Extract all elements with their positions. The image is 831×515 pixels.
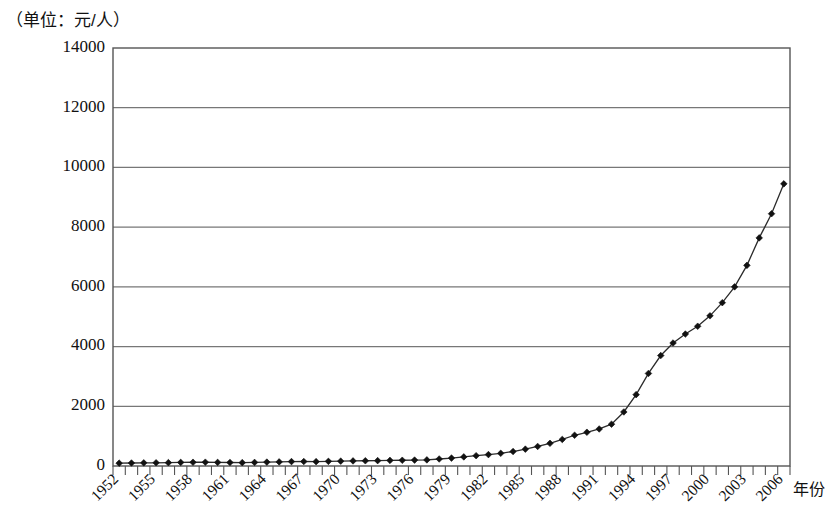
- x-tick-label: 2006: [752, 470, 786, 504]
- x-tick-label: 1997: [641, 470, 675, 504]
- x-tick-label: 2000: [678, 470, 712, 504]
- y-tick-label: 4000: [71, 335, 105, 354]
- data-point-marker: [485, 451, 492, 458]
- data-point-marker: [251, 459, 258, 466]
- data-point-marker: [264, 459, 271, 466]
- series-line: [119, 184, 784, 463]
- x-tick-label: 1952: [87, 470, 121, 504]
- data-point-marker: [239, 459, 246, 466]
- data-point-marker: [510, 448, 517, 455]
- data-point-marker: [473, 452, 480, 459]
- data-point-marker: [337, 458, 344, 465]
- data-point-marker: [399, 457, 406, 464]
- data-point-marker: [387, 457, 394, 464]
- x-tick-label: 2003: [715, 470, 749, 504]
- x-tick-label: 1982: [457, 470, 491, 504]
- unit-label: （单位：元/人）: [6, 6, 130, 31]
- y-tick-label: 8000: [71, 216, 105, 235]
- data-point-marker: [325, 458, 332, 465]
- data-point-marker: [424, 457, 431, 464]
- y-tick-label: 0: [97, 455, 106, 474]
- data-point-marker: [596, 426, 603, 433]
- data-point-marker: [547, 440, 554, 447]
- data-point-marker: [227, 459, 234, 466]
- data-point-marker: [362, 457, 369, 464]
- chart-figure: （单位：元/人） 0200040006000800010000120001400…: [0, 0, 831, 515]
- x-tick-label: 1994: [604, 470, 638, 504]
- y-tick-label: 6000: [71, 276, 105, 295]
- x-tick-label: 1988: [530, 470, 564, 504]
- data-series: [116, 181, 787, 467]
- x-axis-title: 年份: [793, 481, 825, 498]
- x-tick-label: 1985: [494, 470, 528, 504]
- line-chart-svg: 02000400060008000100001200014000 1952195…: [0, 0, 831, 515]
- data-point-marker: [190, 459, 197, 466]
- y-tick-label: 12000: [63, 97, 106, 116]
- data-point-marker: [559, 436, 566, 443]
- x-tick-label: 1991: [567, 470, 601, 504]
- x-tick-label: 1970: [309, 470, 343, 504]
- data-point-marker: [177, 459, 184, 466]
- x-tick-label: 1961: [198, 470, 232, 504]
- data-point-marker: [584, 429, 591, 436]
- x-tick-label: 1964: [235, 470, 269, 504]
- data-point-marker: [202, 459, 209, 466]
- data-point-marker: [534, 443, 541, 450]
- x-tick-label: 1979: [420, 470, 454, 504]
- y-tick-label: 10000: [63, 156, 106, 175]
- plot-border: [113, 48, 790, 466]
- x-axis-ticks: [113, 466, 790, 475]
- data-point-marker: [411, 457, 418, 464]
- data-point-marker: [214, 459, 221, 466]
- data-point-marker: [288, 458, 295, 465]
- x-tick-label: 1967: [272, 470, 306, 504]
- data-point-marker: [436, 456, 443, 463]
- data-point-marker: [276, 459, 283, 466]
- data-point-marker: [165, 459, 172, 466]
- x-tick-label: 1973: [346, 470, 380, 504]
- x-tick-label: 1976: [383, 470, 417, 504]
- data-point-marker: [497, 450, 504, 457]
- plot-frame: [113, 48, 790, 466]
- data-point-marker: [461, 454, 468, 461]
- data-point-marker: [448, 455, 455, 462]
- y-tick-label: 2000: [71, 395, 105, 414]
- data-point-marker: [756, 235, 763, 242]
- data-point-marker: [300, 458, 307, 465]
- y-axis-ticks: 02000400060008000100001200014000: [63, 37, 106, 474]
- data-point-marker: [571, 432, 578, 439]
- data-point-marker: [313, 458, 320, 465]
- x-tick-label: 1955: [124, 470, 158, 504]
- data-point-marker: [522, 446, 529, 453]
- data-point-marker: [350, 458, 357, 465]
- x-axis-tick-labels: 1952195519581961196419671970197319761979…: [87, 470, 786, 504]
- data-point-marker: [140, 460, 147, 467]
- data-point-marker: [781, 181, 788, 188]
- data-point-marker: [744, 262, 751, 269]
- y-tick-label: 14000: [63, 37, 106, 56]
- data-point-marker: [153, 459, 160, 466]
- data-point-marker: [768, 210, 775, 217]
- gridlines: [113, 108, 790, 407]
- x-tick-label: 1958: [161, 470, 195, 504]
- data-point-marker: [374, 457, 381, 464]
